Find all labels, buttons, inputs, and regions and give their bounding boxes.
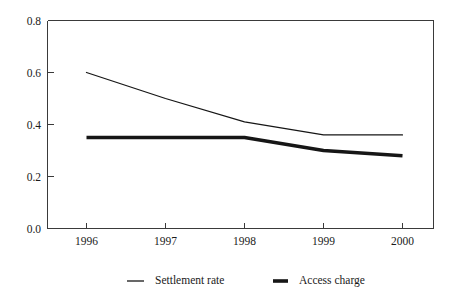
y-tick-label-0.8: 0.8 <box>27 15 42 27</box>
x-tick-label-1998: 1998 <box>233 235 256 247</box>
y-tick-label-0.2: 0.2 <box>27 171 42 183</box>
y-tick-label-0.6: 0.6 <box>27 67 42 79</box>
legend-label-access-charge: Access charge <box>299 274 365 287</box>
line-chart: 0.8 0.6 0.4 0.2 0.0 1996 1997 1998 1999 … <box>0 0 454 301</box>
y-tick-label-0.4: 0.4 <box>27 119 42 131</box>
chart-figure: 0.8 0.6 0.4 0.2 0.0 1996 1997 1998 1999 … <box>0 0 454 301</box>
x-tick-label-1996: 1996 <box>75 235 98 247</box>
chart-background <box>0 0 454 301</box>
x-tick-label-1997: 1997 <box>154 235 177 247</box>
y-tick-label-0.0: 0.0 <box>27 223 42 235</box>
x-tick-label-2000: 2000 <box>391 235 414 247</box>
legend-label-settlement-rate: Settlement rate <box>155 274 224 286</box>
x-tick-label-1999: 1999 <box>312 235 335 247</box>
